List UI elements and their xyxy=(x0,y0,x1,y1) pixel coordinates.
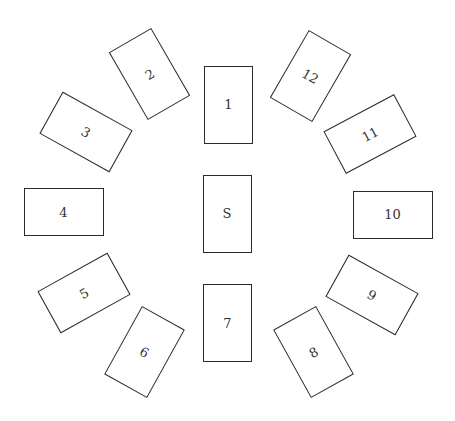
card-12: 12 xyxy=(270,29,351,121)
card-label: S xyxy=(223,207,232,220)
card-label: 5 xyxy=(77,285,91,300)
card-3: 3 xyxy=(39,91,132,172)
card-label: 4 xyxy=(59,206,67,219)
card-8: 8 xyxy=(273,306,354,398)
card-7: 7 xyxy=(203,284,252,362)
card-5: 5 xyxy=(37,252,130,333)
card-label: 10 xyxy=(384,208,401,221)
card-label: 2 xyxy=(143,66,157,81)
card-spread-diagram: 1 2 3 4 5 6 7 8 9 10 11 12 S xyxy=(0,0,455,421)
card-4: 4 xyxy=(24,188,104,236)
card-6: 6 xyxy=(104,306,185,398)
card-10: 10 xyxy=(353,191,433,239)
card-label: 11 xyxy=(360,124,381,143)
card-significator: S xyxy=(203,175,252,253)
card-label: 1 xyxy=(224,98,232,111)
card-9: 9 xyxy=(325,254,418,335)
card-11: 11 xyxy=(323,94,416,174)
card-label: 3 xyxy=(79,124,93,139)
card-label: 9 xyxy=(365,287,379,302)
card-label: 7 xyxy=(223,317,231,330)
card-label: 8 xyxy=(307,344,321,359)
card-label: 12 xyxy=(300,66,321,86)
card-1: 1 xyxy=(204,66,253,144)
card-2: 2 xyxy=(109,28,190,120)
card-label: 6 xyxy=(138,344,152,359)
